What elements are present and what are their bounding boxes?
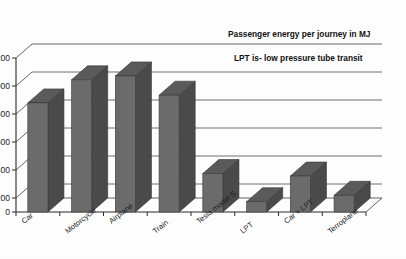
bar-front-face [247,202,267,212]
y-tick-label-400: 400 [0,165,10,175]
gridlines [16,44,382,198]
bar-chart: 1200 1000 800 600 400 200 0 CarMotorcycl… [0,0,406,259]
y-tick-label-200: 200 [0,193,10,203]
x-axis-label-train: Train [151,218,170,236]
x-axis-label-lpt: LPT [238,220,255,236]
bar-front-face [28,103,48,212]
floor-plane [16,198,382,212]
chart-svg: 1200 1000 800 600 400 200 0 CarMotorcycl… [0,0,406,259]
depth-connector-1000 [16,72,32,86]
y-tick-label-0: 0 [5,207,10,217]
bar-side-face [135,62,151,212]
bar-side-face [92,66,108,212]
bar-side-face [48,89,64,212]
bar-lpt [247,188,283,212]
x-axis-ticks [16,212,366,216]
bar-side-face [179,81,195,212]
bar-airplane [115,62,151,212]
bar-series [28,62,370,212]
bar-train [159,81,195,212]
bar-motorcycle [72,66,108,212]
annotation-lpt-note: LPT is- low pressure tube transit [234,53,363,63]
bar-front-face [72,80,92,212]
annotations: Passenger energy per journey in MJ LPT i… [228,29,371,63]
y-tick-label-800: 800 [0,109,10,119]
floor-right-edge [366,198,382,212]
y-tick-label-600: 600 [0,137,10,147]
depth-connector-1200 [16,44,32,58]
annotation-title: Passenger energy per journey in MJ [228,29,371,39]
y-axis: 1200 1000 800 600 400 200 0 [0,53,16,217]
y-tick-label-1200: 1200 [0,53,10,63]
bar-car [28,89,64,212]
bar-front-face [115,76,135,212]
y-tick-label-1000: 1000 [0,81,10,91]
x-axis-label-car: Car [20,211,36,226]
bar-front-face [159,95,179,212]
